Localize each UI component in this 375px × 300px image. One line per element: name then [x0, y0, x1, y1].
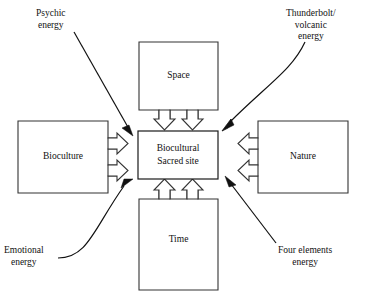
- pointer-line-emotional: [58, 186, 124, 258]
- connector-time-left: [154, 179, 175, 199]
- caption-thunderbolt-volcanic-energy: Thunderbolt/ volcanic energy: [286, 8, 336, 43]
- node-label-time: Time: [169, 234, 189, 244]
- pointer-arrowhead-emotional: [121, 179, 133, 188]
- node-shape-space: [139, 42, 218, 119]
- node-label-nature: Nature: [290, 151, 316, 161]
- center-node-label-line2: Sacred site: [157, 156, 198, 166]
- connector-space-left: [154, 110, 175, 130]
- node-label-space: Space: [167, 70, 190, 80]
- node-label-bioculture: Bioculture: [43, 151, 83, 161]
- connector-nature-lower: [238, 160, 258, 181]
- pointer-arrowhead-thunderbolt: [222, 119, 234, 131]
- center-node-label-line1: Biocultural: [157, 143, 200, 153]
- caption-four-elements-energy: Four elements energy: [278, 245, 332, 268]
- pointer-arrowhead-four-elements: [225, 176, 236, 187]
- pointer-line-psychic: [74, 32, 129, 129]
- center-node-shape: [138, 131, 218, 179]
- connector-bioculture-upper: [108, 133, 128, 154]
- caption-psychic-energy: Psychic energy: [36, 8, 66, 31]
- connector-nature-upper: [238, 133, 258, 154]
- pointer-arrowhead-psychic: [122, 125, 133, 136]
- connector-bioculture-lower: [108, 160, 128, 181]
- connector-space-right: [182, 110, 203, 130]
- caption-emotional-energy: Emotional energy: [4, 245, 44, 268]
- pointer-line-thunderbolt: [230, 42, 305, 122]
- connector-time-right: [182, 179, 203, 199]
- diagram-canvas: Space Time Bioculture Nature Biocultural…: [0, 0, 375, 300]
